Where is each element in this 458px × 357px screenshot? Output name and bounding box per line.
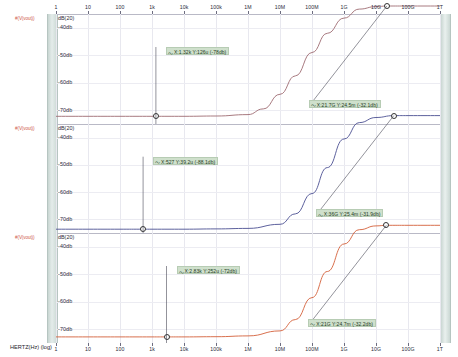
gridline-vertical	[440, 124, 441, 233]
x-tick-label-bottom: 10M	[275, 346, 285, 352]
x-tick-mark	[120, 11, 121, 14]
x-tick-label-top: 10	[85, 4, 91, 10]
x-tick-label-top: 10G	[371, 4, 381, 10]
x-tick-label-bottom: 100G	[401, 346, 414, 352]
x-tick-label-bottom: 100k	[210, 346, 222, 352]
panel-2[interactable]: dB(20)-40db-50db-60db-70db〜X:527 Y:39.2u…	[56, 124, 440, 233]
x-tick-label-bottom: 1T	[437, 346, 443, 352]
cursor-readout-text: X:21G Y:24.7m (-32.2db)	[316, 321, 373, 327]
panel-1[interactable]: dB(20)-40db-50db-60db-70db〜X:1.32k Y:126…	[56, 14, 440, 124]
cursor-6-leader	[56, 233, 440, 343]
x-tick-label-top: 100k	[210, 4, 222, 10]
gridline-vertical	[440, 14, 441, 124]
trace-name-label[interactable]: #(V(vout))	[15, 16, 34, 21]
cursor-readout-text: X:36G Y:25.4m (-31.9db)	[324, 211, 381, 217]
x-tick-label-top: 100M	[305, 4, 318, 10]
x-tick-label-top: 1M	[244, 4, 251, 10]
x-tick-label-bottom: 10	[85, 346, 91, 352]
cursor-2-label[interactable]: 〜X:21.7G Y:24.5m (-32.1db)	[309, 100, 381, 108]
cursor-4-label[interactable]: 〜X:36G Y:25.4m (-31.9db)	[316, 209, 384, 217]
x-tick-label-bottom: 1G	[340, 346, 347, 352]
x-axis-label: HERTZ(Hz) (log)	[10, 344, 52, 350]
x-tick-label-bottom: 1M	[244, 346, 251, 352]
x-tick-label-bottom: 10k	[180, 346, 189, 352]
x-tick-label-top: 1k	[149, 4, 155, 10]
plot-area[interactable]: dB(20)-40db-50db-60db-70db〜X:1.32k Y:126…	[56, 14, 440, 343]
x-tick-mark	[216, 11, 217, 14]
cursor-6-label[interactable]: 〜X:21G Y:24.7m (-32.2db)	[308, 319, 376, 327]
trace-name-label[interactable]: #(V(vout))	[15, 235, 34, 240]
x-tick-label-top: 1	[55, 4, 58, 10]
cursor-glyph-icon: 〜	[318, 213, 323, 217]
panel-3[interactable]: dB(20)-40db-50db-60db-70db〜X:2.83k Y:252…	[56, 233, 440, 343]
x-tick-label-top: 10k	[180, 4, 189, 10]
x-tick-mark	[280, 11, 281, 14]
x-tick-label-bottom: 100M	[305, 346, 318, 352]
gridline-vertical	[440, 233, 441, 343]
x-tick-label-bottom: 1k	[149, 346, 155, 352]
x-tick-mark	[88, 11, 89, 14]
right-scroll-gutter[interactable]	[440, 14, 451, 343]
x-tick-mark	[152, 11, 153, 14]
x-tick-mark	[344, 11, 345, 14]
x-tick-label-top: 100G	[401, 4, 414, 10]
cursor-glyph-icon: 〜	[310, 322, 315, 326]
x-tick-label-top: 1G	[340, 4, 347, 10]
trace-name-label[interactable]: #(V(vout))	[15, 126, 34, 131]
x-tick-mark	[376, 11, 377, 14]
x-tick-mark	[248, 11, 249, 14]
cursor-glyph-icon: 〜	[311, 103, 316, 107]
x-tick-mark	[184, 11, 185, 14]
x-tick-mark	[312, 11, 313, 14]
x-tick-label-top: 100	[116, 4, 125, 10]
x-tick-label-bottom: 10G	[371, 346, 381, 352]
x-tick-label-bottom: 1	[55, 346, 58, 352]
x-tick-label-top: 1T	[437, 4, 443, 10]
cursor-readout-text: X:21.7G Y:24.5m (-32.1db)	[317, 102, 378, 108]
x-tick-label-bottom: 100	[116, 346, 125, 352]
x-tick-mark	[408, 11, 409, 14]
cursor-2-leader	[56, 14, 440, 124]
x-tick-label-top: 10M	[275, 4, 285, 10]
x-tick-mark	[56, 11, 57, 14]
x-tick-mark	[440, 11, 441, 14]
waveform-viewer: dB(20)-40db-50db-60db-70db〜X:1.32k Y:126…	[0, 0, 458, 357]
